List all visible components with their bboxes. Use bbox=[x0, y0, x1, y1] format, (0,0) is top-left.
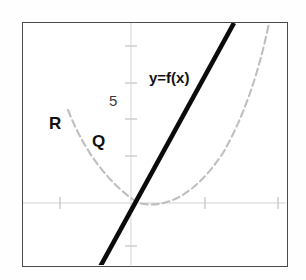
function-label: y=f(x) bbox=[149, 70, 189, 85]
parabola-curve bbox=[68, 23, 269, 204]
math-graph-figure: 5 y=f(x) R Q bbox=[0, 0, 306, 280]
point-label-q: Q bbox=[92, 133, 105, 150]
y-axis-tick-label-5: 5 bbox=[109, 93, 117, 108]
function-line bbox=[100, 23, 234, 265]
axis-lines bbox=[23, 23, 286, 265]
point-label-r: R bbox=[49, 115, 61, 132]
plot-frame: 5 y=f(x) R Q bbox=[22, 22, 288, 267]
plot-area bbox=[23, 23, 286, 265]
